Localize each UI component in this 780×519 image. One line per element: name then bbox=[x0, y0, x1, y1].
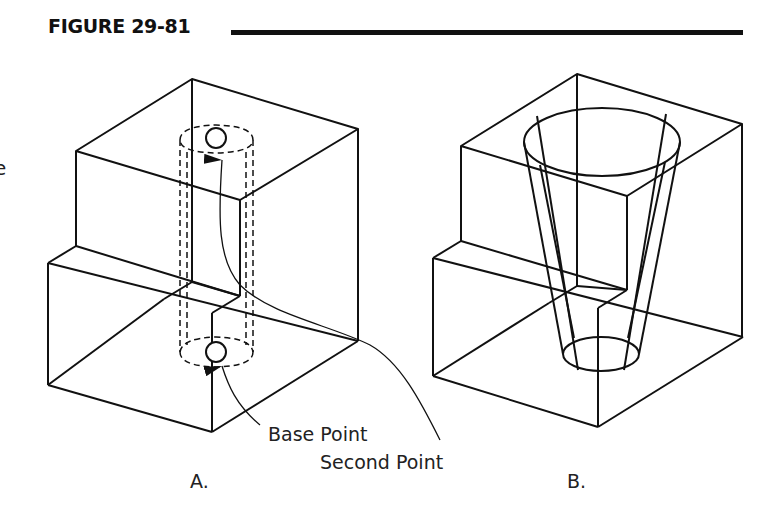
panel-b-label: B. bbox=[567, 470, 586, 492]
second-point-label: Second Point bbox=[320, 451, 443, 473]
panel-a-label: A. bbox=[190, 470, 209, 492]
base-point-marker bbox=[206, 342, 226, 362]
drawing-canvas: Base Point Second Point A. B. bbox=[0, 0, 780, 519]
panel-b-tapered-cone bbox=[524, 108, 680, 371]
base-point-label: Base Point bbox=[268, 423, 367, 445]
second-point-marker bbox=[206, 128, 226, 148]
panel-b-block-with-tapered-hole bbox=[433, 74, 743, 427]
base-point-leader bbox=[222, 366, 260, 425]
panel-a-dashed-cylinder bbox=[180, 125, 253, 367]
panel-a-stepped-block bbox=[48, 79, 358, 432]
